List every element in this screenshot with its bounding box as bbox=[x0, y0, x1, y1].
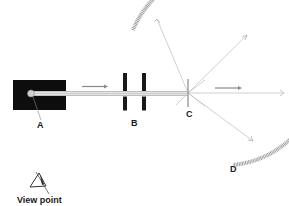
label-c: C bbox=[186, 110, 193, 119]
label-viewpoint: View point bbox=[17, 196, 62, 205]
detection-screen bbox=[133, 0, 289, 165]
viewpoint-icon bbox=[30, 172, 49, 194]
scattered-rays bbox=[157, 19, 284, 141]
label-b: B bbox=[131, 119, 138, 128]
label-a: A bbox=[37, 121, 44, 130]
alpha-beam bbox=[30, 91, 188, 96]
source-point bbox=[28, 90, 35, 97]
label-d: D bbox=[230, 165, 237, 174]
direction-arrows bbox=[82, 85, 242, 91]
diagram-canvas: A B C D View point bbox=[0, 0, 289, 206]
apparatus-svg bbox=[0, 0, 289, 206]
ray-arrowheads bbox=[154, 19, 284, 141]
